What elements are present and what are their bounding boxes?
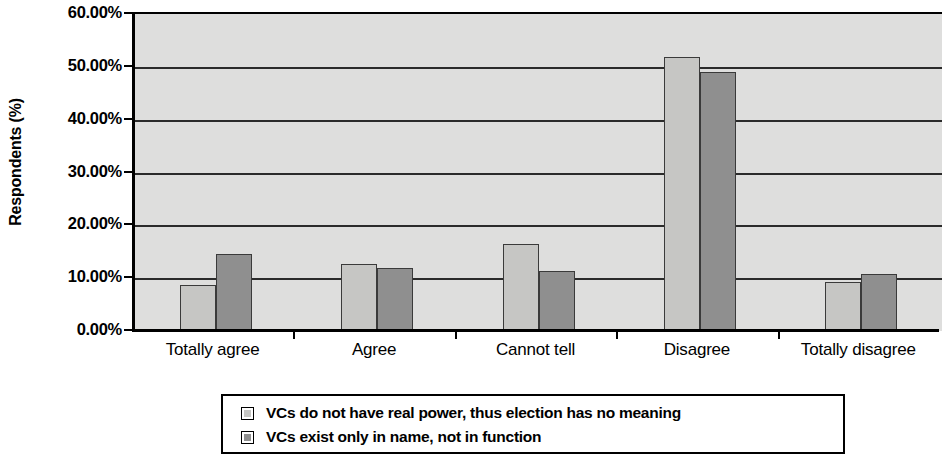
y-axis-tick-mark	[124, 171, 132, 173]
y-axis-tick-labels: 0.00%10.00%20.00%30.00%40.00%50.00%60.00…	[28, 0, 132, 340]
plot-area	[132, 12, 942, 331]
legend-swatch-icon	[241, 431, 254, 444]
bar	[825, 282, 861, 331]
bar	[664, 57, 700, 331]
legend: VCs do not have real power, thus electio…	[221, 394, 845, 454]
y-axis-tick-mark	[124, 65, 132, 67]
bar	[861, 274, 897, 331]
legend-label: VCs exist only in name, not in function	[266, 428, 541, 446]
bar	[341, 264, 377, 331]
bar	[503, 244, 539, 331]
y-axis-tick-label: 40.00%	[68, 108, 122, 127]
x-axis-tick-mark	[616, 329, 618, 339]
x-axis-tick-mark	[455, 329, 457, 339]
y-axis-tick-mark	[124, 329, 132, 331]
x-axis-tick-mark	[778, 329, 780, 339]
y-axis-tick-mark	[124, 223, 132, 225]
bar	[377, 268, 413, 331]
legend-item: VCs do not have real power, thus electio…	[241, 402, 843, 424]
legend-label: VCs do not have real power, thus electio…	[266, 404, 681, 422]
y-axis-tick-mark	[124, 12, 132, 14]
bar	[700, 72, 736, 331]
bar	[180, 285, 216, 331]
x-axis-tick-label: Agree	[352, 340, 396, 360]
x-axis-tick-mark	[293, 329, 295, 339]
y-axis-tick-mark	[124, 118, 132, 120]
y-axis-tick-label: 30.00%	[68, 161, 122, 180]
y-axis-tick-label: 10.00%	[68, 267, 122, 286]
y-axis-tick-label: 50.00%	[68, 55, 122, 74]
x-axis-tick-labels: Totally agreeAgreeCannot tellDisagreeTot…	[132, 340, 939, 370]
legend-item: VCs exist only in name, not in function	[241, 426, 843, 448]
bar	[539, 271, 575, 331]
x-axis-tick-label: Totally agree	[166, 340, 260, 360]
bar	[216, 254, 252, 331]
y-axis-tick-label: 20.00%	[68, 214, 122, 233]
y-axis-tick-mark	[124, 276, 132, 278]
x-axis-tick-label: Cannot tell	[496, 340, 575, 360]
y-axis-title: Respondents (%)	[7, 87, 25, 237]
x-axis-tick-label: Totally disagree	[801, 340, 916, 360]
y-axis-tick-label: 60.00%	[68, 3, 122, 22]
legend-swatch-icon	[241, 407, 254, 420]
y-axis-tick-label: 0.00%	[77, 320, 122, 339]
x-axis-tick-label: Disagree	[664, 340, 730, 360]
bars-layer	[135, 14, 942, 331]
